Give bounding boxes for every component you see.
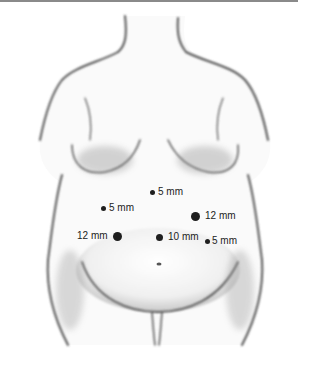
port-label: 12 mm [77, 231, 108, 241]
port-midline-lower: 10 mm [156, 232, 199, 242]
navel [157, 263, 162, 266]
port-right-lower: 5 mm [205, 236, 237, 246]
port-marker-icon [156, 234, 163, 241]
port-marker-icon [205, 239, 210, 244]
port-marker-icon [150, 190, 155, 195]
port-left-upper: 5 mm [101, 203, 134, 213]
port-label: 12 mm [205, 211, 236, 221]
port-left-lower: 12 mm [77, 231, 122, 241]
port-marker-icon [113, 232, 122, 241]
port-label: 5 mm [109, 203, 134, 213]
port-right-upper: 12 mm [191, 211, 236, 221]
port-marker-icon [101, 206, 106, 211]
port-label: 5 mm [158, 187, 183, 197]
port-upper-midline: 5 mm [150, 187, 183, 197]
port-label: 5 mm [212, 236, 237, 246]
port-label: 10 mm [168, 232, 199, 242]
port-marker-icon [191, 212, 200, 221]
